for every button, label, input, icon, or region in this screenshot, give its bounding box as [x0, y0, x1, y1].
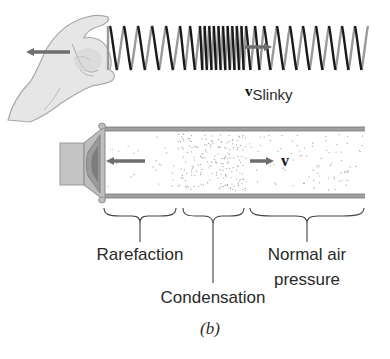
- slinky-velocity-label: vSlinky: [245, 82, 293, 99]
- slinky-spring: [108, 26, 368, 70]
- wave-velocity-label: v: [281, 153, 289, 169]
- label-rarefaction: Rarefaction: [97, 246, 184, 263]
- figure: vSlinky v Rarefaction Condensation Norma…: [0, 0, 390, 359]
- brace-normal: [250, 208, 364, 224]
- label-pressure: pressure: [274, 271, 340, 288]
- speaker-icon: [60, 123, 106, 203]
- figure-caption: (b): [200, 320, 220, 337]
- velocity-symbol: v: [245, 83, 253, 99]
- label-condensation: Condensation: [161, 289, 266, 306]
- velocity-subscript: Slinky: [253, 86, 293, 103]
- brace-condensation: [183, 208, 244, 224]
- hand-icon: [8, 15, 114, 122]
- air-molecules: [107, 134, 363, 192]
- label-normal-air: Normal air: [268, 246, 346, 263]
- brace-rarefaction: [104, 208, 176, 224]
